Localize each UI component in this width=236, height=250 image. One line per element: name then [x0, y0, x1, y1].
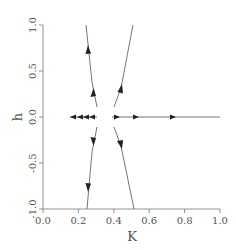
x-tick-label: 1.0 [212, 215, 228, 226]
trajectory-upper-right [114, 25, 133, 107]
arrow-up-icon [118, 84, 124, 94]
arrow-left-icon [70, 115, 76, 120]
y-axis-title: h [10, 112, 25, 121]
arrow-right-icon [133, 115, 139, 120]
arrow-left-icon [77, 115, 83, 120]
x-tick-label: 0.4 [106, 215, 122, 226]
y-axis: 1.0 0.5 0.0 -0.5 -1.0 h [10, 17, 43, 219]
arrow-up-icon [91, 88, 97, 97]
arrow-down-icon [117, 140, 123, 149]
x-axis: 0.0 0.2 0.4 0.6 0.8 1.0 K [35, 209, 228, 244]
trajectory-lower-right [114, 127, 134, 209]
arrow-left-icon [89, 115, 95, 120]
y-tick-label: 0.0 [27, 109, 38, 125]
y-tick-label: 1.0 [27, 17, 38, 33]
arrow-left-icon [83, 115, 89, 120]
h-zero-flow-left [70, 115, 97, 120]
arrow-down-icon [91, 137, 97, 146]
arrow-down-icon [86, 183, 92, 192]
trajectory-upper-left [86, 25, 98, 107]
x-tick-label: 0.6 [141, 215, 157, 226]
h-zero-flow-right [112, 115, 220, 120]
x-tick-label: 0.8 [177, 215, 193, 226]
x-tick-label: 0.2 [70, 215, 86, 226]
y-tick-label: -0.5 [27, 153, 38, 172]
x-axis-title: K [127, 229, 137, 244]
trajectory-lower-left [86, 127, 98, 209]
arrow-up-icon [86, 45, 92, 54]
arrow-right-icon [114, 115, 120, 120]
arrow-right-icon [170, 115, 176, 120]
y-tick-label: 0.5 [27, 63, 38, 79]
flow-diagram-chart: 1.0 0.5 0.0 -0.5 -1.0 h 0.0 0.2 0.4 0.6 … [0, 0, 236, 250]
x-tick-label: 0.0 [35, 215, 51, 226]
